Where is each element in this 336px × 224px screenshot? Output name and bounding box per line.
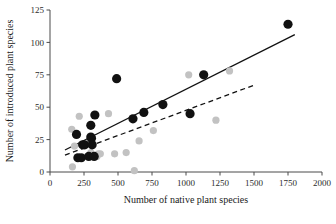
y-axis-title: Number of introduced plant species: [4, 20, 15, 163]
data-point: [90, 152, 99, 161]
data-point: [150, 127, 157, 134]
x-tick-label: 1750: [279, 178, 298, 188]
data-point: [131, 167, 138, 174]
x-tick-label: 500: [111, 178, 125, 188]
data-point: [158, 100, 167, 109]
data-point: [283, 20, 292, 29]
y-tick-label: 50: [35, 102, 45, 112]
y-tick-label: 0: [40, 167, 45, 177]
solid-regression-line: [65, 35, 295, 150]
plot-canvas: 0255075100125025050075010001250150017502…: [0, 0, 336, 224]
x-tick-label: 250: [77, 178, 91, 188]
data-point: [72, 130, 81, 139]
data-point: [185, 109, 194, 118]
data-point: [90, 110, 99, 119]
data-point: [76, 113, 83, 120]
data-point: [69, 163, 76, 170]
x-tick-label: 750: [145, 178, 159, 188]
data-point: [185, 71, 192, 78]
x-tick-label: 1500: [245, 178, 264, 188]
x-tick-label: 2000: [313, 178, 332, 188]
x-tick-label: 0: [48, 178, 53, 188]
data-point: [112, 74, 121, 83]
data-point: [199, 70, 208, 79]
y-tick-label: 25: [35, 135, 45, 145]
data-point: [212, 117, 219, 124]
y-tick-label: 100: [31, 38, 45, 48]
data-point: [86, 121, 95, 130]
data-point: [135, 137, 142, 144]
x-axis-title: Number of native plant species: [124, 194, 249, 205]
data-point: [88, 140, 97, 149]
y-tick-label: 125: [31, 5, 45, 15]
x-tick-label: 1000: [177, 178, 196, 188]
x-tick-label: 1250: [211, 178, 230, 188]
y-tick-label: 75: [35, 70, 45, 80]
data-point: [111, 150, 118, 157]
scatter-plot-figure: 0255075100125025050075010001250150017502…: [0, 0, 336, 224]
data-point: [226, 67, 233, 74]
data-point: [123, 149, 130, 156]
data-point: [128, 114, 137, 123]
data-point: [105, 110, 112, 117]
data-point: [71, 142, 78, 149]
data-point: [139, 108, 148, 117]
